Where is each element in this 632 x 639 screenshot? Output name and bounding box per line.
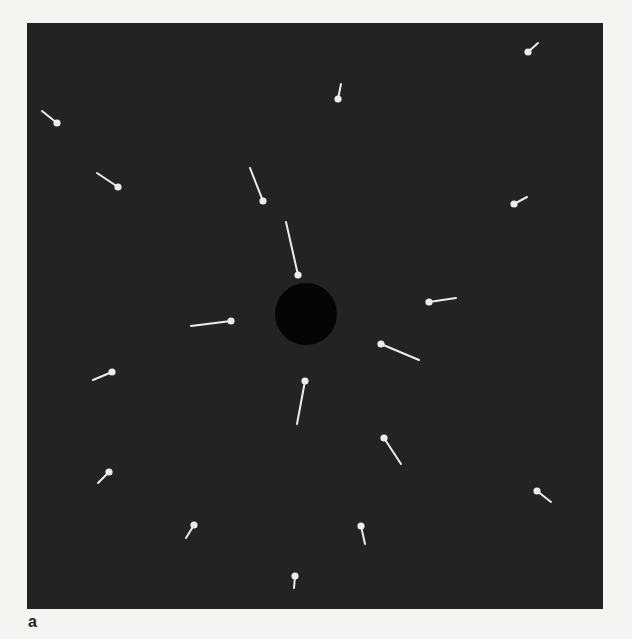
marker [42, 111, 61, 127]
marker [97, 173, 122, 191]
marker [191, 317, 235, 326]
marker [98, 468, 113, 483]
marker-tail [250, 168, 263, 201]
marker-dot [190, 521, 197, 528]
marker-tail [97, 173, 118, 187]
marker-dot [227, 317, 234, 324]
central-disc [275, 283, 337, 345]
particle-scene [27, 23, 603, 609]
image-panel [27, 23, 603, 609]
marker [334, 84, 341, 103]
marker [524, 43, 538, 56]
marker-dot [291, 572, 298, 579]
marker-dot [524, 48, 531, 55]
marker-dot [301, 377, 308, 384]
marker-dot [108, 368, 115, 375]
marker-dot [114, 183, 121, 190]
marker-dot [53, 119, 60, 126]
marker-dot [294, 271, 301, 278]
marker-dot [377, 340, 384, 347]
marker-tail [191, 321, 231, 326]
marker [297, 377, 309, 424]
marker [186, 521, 198, 538]
marker-tail [286, 222, 298, 275]
marker [291, 572, 298, 588]
marker-dot [510, 200, 517, 207]
marker [380, 434, 401, 464]
marker [357, 522, 365, 544]
marker-dot [259, 197, 266, 204]
marker [425, 298, 456, 306]
marker [510, 197, 527, 208]
marker-tail [381, 344, 419, 360]
marker-dot [105, 468, 112, 475]
panel-label: a [28, 614, 37, 630]
marker-tail [429, 298, 456, 302]
marker-dot [357, 522, 364, 529]
marker-tail [297, 381, 305, 424]
marker-dot [380, 434, 387, 441]
marker-dot [334, 95, 341, 102]
marker-dot [425, 298, 432, 305]
marker [533, 487, 551, 502]
marker [93, 368, 116, 380]
marker-tail [384, 438, 401, 464]
marker-dot [533, 487, 540, 494]
marker [286, 222, 302, 279]
marker [250, 168, 267, 205]
marker [377, 340, 419, 360]
